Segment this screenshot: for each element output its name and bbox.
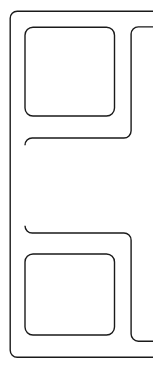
center-notch-lower-path bbox=[25, 226, 153, 341]
drawing-canvas bbox=[0, 0, 153, 368]
center-notch-upper-path bbox=[25, 27, 153, 145]
bottom-square-cutout-path bbox=[25, 254, 115, 335]
top-square-cutout-path bbox=[25, 27, 115, 116]
profile-cross-section-drawing bbox=[0, 0, 153, 368]
